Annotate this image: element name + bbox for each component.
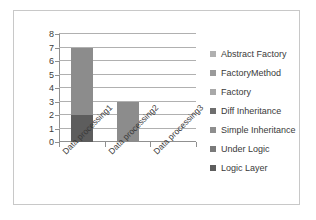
y-axis-tick: [55, 61, 59, 62]
x-axis-tick: [105, 142, 106, 147]
legend-swatch-icon: [210, 89, 216, 95]
legend-swatch-icon: [210, 165, 216, 171]
chart-frame: 012345678 Data processing1Data processin…: [13, 10, 300, 205]
y-axis-tick: [55, 75, 59, 76]
y-axis-tick-label: 5: [40, 71, 54, 80]
legend-swatch-icon: [210, 146, 216, 152]
y-axis-tick: [55, 48, 59, 49]
legend-label: Diff Inheritance: [221, 106, 281, 116]
legend-item[interactable]: Logic Layer: [210, 158, 314, 177]
legend-swatch-icon: [210, 51, 216, 57]
y-axis-tick-label: 2: [40, 111, 54, 120]
y-axis-tick: [55, 102, 59, 103]
y-axis-tick-label: 7: [40, 44, 54, 53]
legend-label: Abstract Factory: [221, 49, 287, 59]
y-axis-tick: [55, 88, 59, 89]
legend-swatch-icon: [210, 70, 216, 76]
y-axis-tick-label: 8: [40, 30, 54, 39]
legend-swatch-icon: [210, 127, 216, 133]
legend-item[interactable]: Factory: [210, 82, 314, 101]
y-axis-tick-label: 3: [40, 98, 54, 107]
x-axis-tick: [59, 142, 60, 147]
y-axis-labels: 012345678: [38, 34, 54, 142]
bar-segment[interactable]: [71, 48, 93, 116]
legend-item[interactable]: FactoryMethod: [210, 63, 314, 82]
x-axis-tick: [196, 142, 197, 147]
legend-label: Simple Inheritance: [221, 125, 296, 135]
y-axis-tick-label: 6: [40, 57, 54, 66]
legend-swatch-icon: [210, 108, 216, 114]
y-axis-tick: [55, 34, 59, 35]
y-axis-tick: [55, 115, 59, 116]
legend-label: FactoryMethod: [221, 68, 281, 78]
y-axis-tick-label: 1: [40, 125, 54, 134]
legend-item[interactable]: Diff Inheritance: [210, 101, 314, 120]
legend-item[interactable]: Simple Inheritance: [210, 120, 314, 139]
y-axis-tick-label: 0: [40, 138, 54, 147]
x-axis-tick: [150, 142, 151, 147]
y-axis-tick-label: 4: [40, 84, 54, 93]
legend-label: Logic Layer: [221, 163, 268, 173]
y-axis-tick: [55, 129, 59, 130]
legend-item[interactable]: Abstract Factory: [210, 44, 314, 63]
legend-label: Factory: [221, 87, 251, 97]
chart-legend: Abstract FactoryFactoryMethodFactoryDiff…: [210, 44, 314, 177]
legend-item[interactable]: Under Logic: [210, 139, 314, 158]
legend-label: Under Logic: [221, 144, 270, 154]
